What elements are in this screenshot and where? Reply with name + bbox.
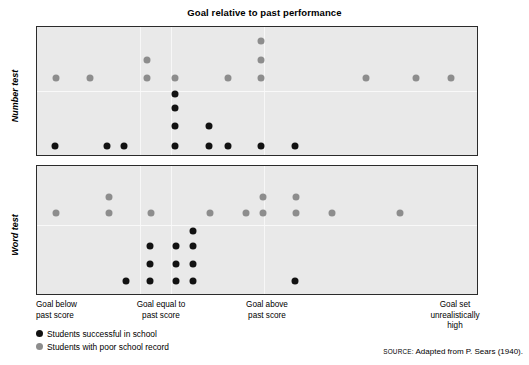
data-point [292,143,299,150]
data-point [190,260,197,267]
data-point [120,143,127,150]
data-point [171,90,178,97]
panel-word-test [36,165,478,295]
data-point [105,210,112,217]
legend-label-successful: Students successful in school [47,329,157,339]
data-point [328,210,335,217]
data-point [86,75,93,82]
gridline-vertical [171,166,172,294]
data-point [144,56,151,63]
data-point [171,104,178,111]
page-title: Goal relative to past performance [0,7,529,18]
data-point [171,143,178,150]
legend: Students successful in school Students w… [36,327,169,353]
legend-dot-gray-icon [36,343,43,350]
data-point [146,260,153,267]
data-point [173,278,180,285]
panel-label-number-test: Number test [10,31,20,161]
data-point [190,228,197,235]
panel-number-test [36,26,478,156]
data-point [146,278,153,285]
data-point [243,210,250,217]
data-point [146,243,153,250]
data-point [173,260,180,267]
data-point [173,243,180,250]
data-point [52,210,59,217]
x-axis-label-goal-unrealistic: Goal set unrealistically high [400,300,510,332]
data-point [147,210,154,217]
x-axis-label-goal-equal: Goal equal to past score [106,300,216,321]
source-note: SOURCE: Adapted from P. Sears (1940). [383,347,523,356]
data-point [259,210,266,217]
data-point [413,75,420,82]
data-point [448,75,455,82]
data-point [144,75,151,82]
legend-label-poor-record: Students with poor school record [47,342,169,352]
data-point [293,193,300,200]
data-point [206,143,213,150]
data-point [224,143,231,150]
data-point [52,143,59,150]
data-point [259,193,266,200]
data-point [171,122,178,129]
figure-root: Goal relative to past performance Number… [0,0,529,365]
data-point [258,143,265,150]
data-point [171,75,178,82]
data-point [257,38,264,45]
x-axis-label-goal-above: Goal above past score [212,300,322,321]
legend-dot-black-icon [36,330,43,337]
legend-item-successful: Students successful in school [36,327,169,340]
source-text: Adapted from P. Sears (1940). [416,347,523,356]
gridline-horizontal [37,225,477,226]
plot-area-word-test [37,166,477,294]
data-point [105,193,112,200]
data-point [206,122,213,129]
data-point [396,210,403,217]
data-point [123,278,130,285]
plot-area-number-test [37,27,477,155]
data-point [292,278,299,285]
data-point [362,75,369,82]
panel-label-word-test: Word test [10,170,20,300]
data-point [293,210,300,217]
data-point [257,75,264,82]
data-point [190,243,197,250]
data-point [190,278,197,285]
gridline-horizontal [37,91,477,92]
data-point [103,143,110,150]
data-point [207,210,214,217]
gridline-vertical [140,166,141,294]
data-point [257,56,264,63]
data-point [52,75,59,82]
gridline-vertical [264,166,265,294]
source-kicker: SOURCE: [383,348,414,355]
data-point [224,75,231,82]
legend-item-poor-record: Students with poor school record [36,340,169,353]
